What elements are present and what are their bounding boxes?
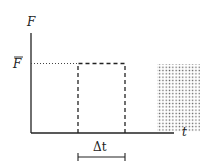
level-label-text: F: [12, 57, 22, 71]
interval-label: Δt: [93, 140, 107, 154]
x-axis-label: t: [182, 125, 187, 139]
force-time-diagram: F F t Δt: [0, 0, 213, 166]
level-label: F: [12, 57, 23, 71]
y-axis-label: F: [26, 15, 36, 29]
dotted-shaded-region: [157, 64, 200, 132]
dashed-pulse-rectangle: [78, 64, 125, 134]
interval-bracket: [78, 153, 125, 161]
